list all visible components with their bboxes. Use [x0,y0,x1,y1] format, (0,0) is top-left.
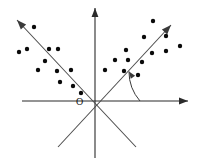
data-point [56,47,60,51]
data-point [122,69,126,73]
data-point [32,25,36,29]
principal-axes-group [17,20,171,147]
figure-canvas: O [0,0,197,167]
rotation-angle-arc-arrowhead [129,71,135,78]
data-point [140,60,144,64]
data-point [47,47,51,51]
scatter-diagram-figure: O [0,0,197,167]
data-point [136,73,140,77]
data-point [36,68,40,72]
vertical-axis-arrowhead [92,8,99,17]
second-principal-axis [17,20,136,147]
data-point [71,84,75,88]
data-point [150,51,154,55]
data-point [17,50,21,54]
origin-label: O [76,96,83,107]
data-point [58,80,62,84]
data-point [113,58,117,62]
data-point [103,68,107,72]
data-point [164,49,168,53]
data-point [151,19,155,23]
data-point [142,35,146,39]
data-point [43,59,47,63]
horizontal-axis-arrowhead [179,98,188,105]
data-point [55,69,59,73]
data-point [79,91,83,95]
data-point [69,68,73,72]
data-point [124,48,128,52]
data-point [178,44,182,48]
scatter-points-group [17,19,182,95]
data-point [126,58,130,62]
data-point [164,34,168,38]
data-point [25,47,29,51]
